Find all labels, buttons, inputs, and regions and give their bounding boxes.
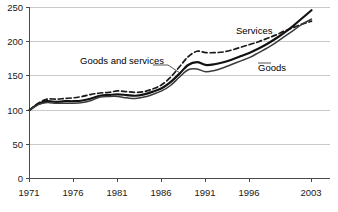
y-axis-ticks (26, 8, 29, 179)
x-tick-label-1991: 1991 (194, 187, 215, 198)
x-tick-label-1971: 1971 (18, 187, 39, 198)
y-tick-label-200: 200 (7, 36, 23, 47)
y-tick-label-50: 50 (12, 139, 23, 150)
y-tick-label-250: 250 (7, 2, 23, 13)
chart-canvas: 250 200 150 100 50 0 1971 1976 1981 1986… (0, 0, 338, 212)
x-tick-label-1986: 1986 (150, 187, 171, 198)
x-axis-tick-labels: 1971 1976 1981 1986 1991 1996 2003 (18, 187, 321, 198)
gridlines (29, 8, 330, 145)
x-tick-label-1976: 1976 (62, 187, 83, 198)
series-label-goods: Goods (258, 62, 286, 73)
y-tick-label-150: 150 (7, 70, 23, 81)
series-label-goods-and-services: Goods and services (80, 55, 164, 66)
series-label-services: Services (236, 25, 273, 36)
line-chart-figure: 250 200 150 100 50 0 1971 1976 1981 1986… (0, 0, 338, 212)
y-axis-tick-labels: 250 200 150 100 50 0 (7, 2, 23, 184)
x-tick-label-1996: 1996 (238, 187, 259, 198)
y-tick-label-0: 0 (18, 173, 23, 184)
y-tick-label-100: 100 (7, 105, 23, 116)
x-tick-label-1981: 1981 (106, 187, 127, 198)
x-tick-label-2003: 2003 (300, 187, 321, 198)
